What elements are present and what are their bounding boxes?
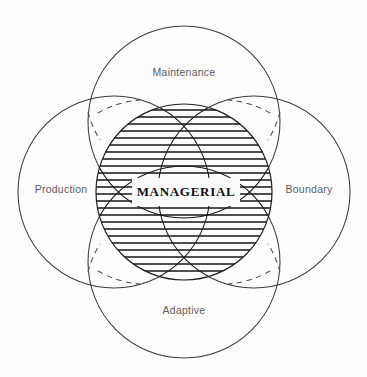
label-maintenance: Maintenance <box>153 66 216 78</box>
venn-diagram-svg: MANAGERIAL Maintenance Production Bounda… <box>0 0 367 377</box>
center-label-managerial: MANAGERIAL <box>137 184 236 199</box>
dashed-arc-top-right-a <box>228 100 270 113</box>
dashed-arc-bottom-right-b <box>268 244 280 272</box>
label-production: Production <box>35 183 88 195</box>
dashed-arc-top-left-b <box>88 112 100 140</box>
dashed-arc-top-left-a <box>98 100 140 113</box>
dashed-arc-bottom-left-b <box>88 244 100 272</box>
label-boundary: Boundary <box>286 183 333 195</box>
dashed-arc-bottom-right-a <box>228 271 270 284</box>
dashed-arc-bottom-left-a <box>98 271 140 284</box>
label-adaptive: Adaptive <box>163 304 206 316</box>
dashed-arc-top-right-b <box>268 112 280 140</box>
venn-diagram-root: MANAGERIAL Maintenance Production Bounda… <box>0 0 367 377</box>
